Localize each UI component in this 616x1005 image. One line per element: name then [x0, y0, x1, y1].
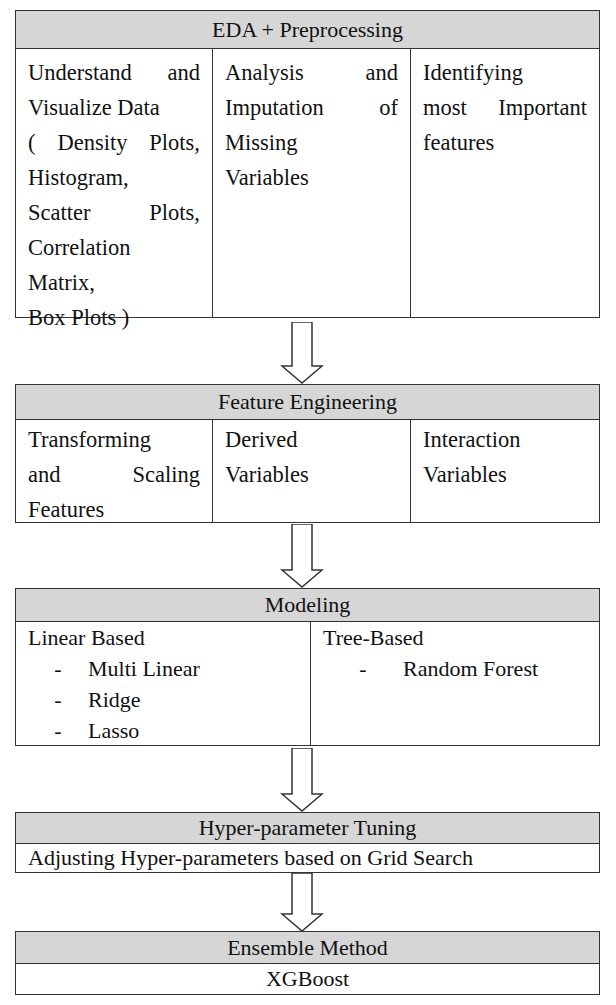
text-line: Variables [225, 160, 398, 195]
text-line: Scatter Plots, [28, 195, 200, 230]
text-line: Derived [225, 422, 398, 457]
item-label: Random Forest [403, 653, 538, 684]
modeling-column-tree: Tree-Based -Random Forest [310, 622, 599, 745]
fe-column-interaction: Interaction Variables [410, 420, 599, 522]
dash-bullet-icon: - [28, 653, 88, 684]
dash-bullet-icon: - [28, 684, 88, 715]
text-line: Interaction [423, 422, 587, 457]
down-arrow-icon [280, 524, 324, 588]
stage-title: Ensemble Method [16, 932, 599, 964]
stage-title: Feature Engineering [16, 385, 599, 420]
text-line: ( Density Plots, [28, 125, 200, 160]
eda-column-features: Identifying most Important features [410, 49, 599, 317]
text-line: most Important [423, 90, 587, 125]
tuning-description: Adjusting Hyper-parameters based on Grid… [16, 844, 599, 872]
stage-eda-preprocessing: EDA + Preprocessing Understand and Visua… [15, 10, 600, 318]
text-line: Variables [225, 457, 398, 492]
stage-title: Hyper-parameter Tuning [16, 813, 599, 844]
text-line: Analysis and [225, 55, 398, 90]
item-label: Lasso [88, 715, 139, 746]
stage-modeling: Modeling Linear Based -Multi Linear -Rid… [15, 588, 600, 746]
dash-bullet-icon: - [323, 653, 403, 684]
list-item: -Lasso [28, 715, 298, 746]
item-label: Multi Linear [88, 653, 200, 684]
stage-feature-engineering: Feature Engineering Transforming and Sca… [15, 384, 600, 523]
text-line: Identifying [423, 55, 587, 90]
down-arrow-icon [280, 873, 324, 932]
text-line: features [423, 125, 587, 160]
eda-column-visualize: Understand and Visualize Data ( Density … [16, 49, 212, 317]
fe-column-transforming: Transforming and Scaling Features [16, 420, 212, 522]
text-line: Imputation of [225, 90, 398, 125]
text-line: Features [28, 492, 200, 527]
stage-title: EDA + Preprocessing [16, 11, 599, 49]
text-line: Variables [423, 457, 587, 492]
down-arrow-icon [280, 748, 324, 812]
stage-title: Modeling [16, 589, 599, 622]
list-item: -Random Forest [323, 653, 587, 684]
text-line: Histogram, [28, 160, 200, 195]
text-line: Understand and [28, 55, 200, 90]
eda-column-missing: Analysis and Imputation of Missing Varia… [212, 49, 410, 317]
stage-hyperparameter-tuning: Hyper-parameter Tuning Adjusting Hyper-p… [15, 812, 600, 873]
text-line: Correlation [28, 230, 200, 265]
fe-column-derived: Derived Variables [212, 420, 410, 522]
text-line: Visualize Data [28, 90, 200, 125]
down-arrow-icon [280, 322, 324, 384]
dash-bullet-icon: - [28, 715, 88, 746]
ensemble-model: XGBoost [16, 964, 599, 994]
list-item: -Ridge [28, 684, 298, 715]
text-line: Matrix, [28, 265, 200, 300]
text-line: and Scaling [28, 457, 200, 492]
item-label: Ridge [88, 684, 141, 715]
stage-ensemble-method: Ensemble Method XGBoost [15, 931, 600, 995]
text-line: Missing [225, 125, 398, 160]
list-item: -Multi Linear [28, 653, 298, 684]
modeling-column-linear: Linear Based -Multi Linear -Ridge -Lasso [16, 622, 310, 745]
text-line: Box Plots ) [28, 300, 200, 335]
column-heading: Tree-Based [323, 622, 587, 653]
column-heading: Linear Based [28, 622, 298, 653]
text-line: Transforming [28, 422, 200, 457]
